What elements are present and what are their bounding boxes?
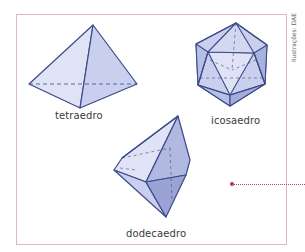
tetrahedron-shape xyxy=(29,25,137,108)
illustration-credit: Ilustrações: DAE xyxy=(290,13,297,62)
polyhedra-illustration xyxy=(0,0,305,252)
dodecahedron-shape xyxy=(114,116,190,217)
dodecahedron-label: dodecaedro xyxy=(126,228,186,239)
icosahedron-shape xyxy=(196,23,267,106)
icosahedron-label: icosaedro xyxy=(211,115,260,126)
tetrahedron-label: tetraedro xyxy=(55,110,103,121)
leader-line xyxy=(232,184,305,185)
